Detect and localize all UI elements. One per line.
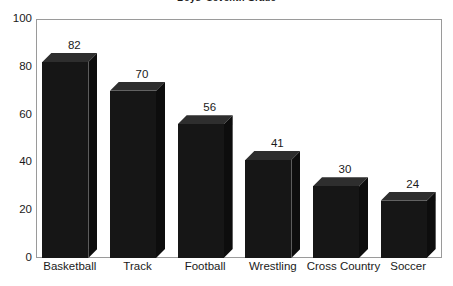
bar-side-face [88,53,97,258]
bar-3d-body [313,177,368,258]
bar-value-label: 82 [51,40,97,52]
bar-top-face [178,115,233,124]
bar-top-face [42,53,97,62]
bar-value-label: 70 [119,69,165,81]
bar-side-face [427,192,436,258]
bar-front-face [245,160,291,258]
bar-value-label: 56 [187,102,233,114]
bar-3d-body [381,192,436,258]
bar-top-face [245,151,300,160]
bar-column[interactable] [381,192,436,258]
bar-value-label: 24 [390,179,436,191]
bar-column[interactable] [178,115,233,258]
x-axis-tick-label: Cross Country [307,261,375,273]
x-axis-tick-label: Track [104,261,172,273]
bar-3d-body [178,115,233,258]
bar-front-face [313,186,359,258]
x-axis-tick-label: Wrestling [239,261,307,273]
bar-3d-body [110,82,165,258]
x-axis-tick-label: Basketball [36,261,104,273]
bar-front-face [42,62,88,258]
bar-side-face [291,151,300,258]
y-axis-tick-label: 80 [0,61,32,73]
bar-3d-body [245,151,300,258]
bar-value-label: 30 [322,164,368,176]
y-axis-tick-label: 0 [0,252,32,264]
x-axis: BasketballTrackFootballWrestlingCross Co… [36,261,442,281]
bar-top-face [110,82,165,91]
bar-column[interactable] [42,53,97,258]
bar-column[interactable] [313,177,368,258]
bar-front-face [178,124,224,258]
bar-column[interactable] [110,82,165,258]
bar-3d-body [42,53,97,258]
y-axis: 020406080100 [0,19,32,258]
chart-title: Boys' Seventh Grade [0,0,453,3]
bar-value-label: 41 [254,138,300,150]
bars-layer: 827056413024 [36,19,442,258]
y-axis-tick-label: 100 [0,13,32,25]
y-axis-tick-label: 60 [0,109,32,121]
bar-column[interactable] [245,151,300,258]
bar-top-face [381,192,436,201]
x-axis-tick-label: Soccer [374,261,442,273]
bar-front-face [110,91,156,258]
y-axis-tick-label: 40 [0,157,32,169]
bar-side-face [224,115,233,258]
bar-side-face [156,82,165,258]
bar-side-face [359,177,368,258]
x-axis-tick-label: Football [171,261,239,273]
y-axis-tick-label: 20 [0,204,32,216]
bar-chart: Boys' Seventh Grade 020406080100 8270564… [0,0,453,286]
bar-front-face [381,201,427,258]
bar-top-face [313,177,368,186]
